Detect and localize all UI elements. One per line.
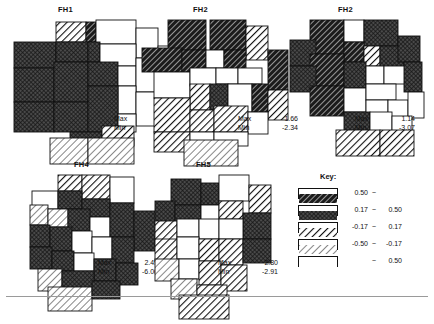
map-region xyxy=(199,219,219,239)
map-region xyxy=(110,203,134,237)
map-region xyxy=(54,62,88,102)
map-region xyxy=(249,185,271,213)
map-region xyxy=(54,102,88,132)
panel-title-fh2b: FH2 xyxy=(338,5,353,14)
legend-low: 0.17 xyxy=(346,206,368,213)
map-region xyxy=(252,84,268,112)
map-region xyxy=(238,68,262,84)
panel-title-fh2a: FH2 xyxy=(193,5,208,14)
map-region xyxy=(219,175,249,201)
map-region xyxy=(110,177,134,203)
map-region xyxy=(366,84,396,100)
max-label: Max xyxy=(114,114,127,123)
map-region xyxy=(404,62,422,92)
map-region xyxy=(52,251,74,271)
min-label: Min xyxy=(218,267,229,276)
map-region xyxy=(179,259,199,279)
legend-label: -0.17~0.17 xyxy=(346,223,402,230)
legend-swatch-light-thin-hatch xyxy=(298,239,338,250)
map-region xyxy=(72,231,92,253)
legend-high: 0.50 xyxy=(380,206,402,213)
legend-swatch-light-thick-hatch xyxy=(298,222,338,233)
map-region xyxy=(58,175,82,191)
map-region xyxy=(118,86,136,114)
map-region xyxy=(154,72,190,98)
map-region xyxy=(90,217,110,237)
legend-separator: ~ xyxy=(368,206,380,213)
map-region xyxy=(184,140,238,166)
map-region xyxy=(380,130,414,156)
max-value: 2.80 xyxy=(252,258,278,267)
map-region xyxy=(142,48,182,72)
map-region xyxy=(179,295,229,319)
map-region xyxy=(219,201,243,219)
map-region xyxy=(206,50,224,68)
min-label: Min xyxy=(355,123,366,132)
map-region xyxy=(88,138,134,164)
max-label: Max xyxy=(238,114,251,123)
map-region xyxy=(58,191,82,209)
legend-separator: ~ xyxy=(368,257,380,264)
map-region xyxy=(96,20,136,44)
legend-high: 0.50 xyxy=(380,257,402,264)
map-region xyxy=(190,84,210,110)
min-label: Min xyxy=(238,123,249,132)
map-region xyxy=(344,62,366,88)
panel-title-fh4: FH4 xyxy=(74,160,89,169)
legend-label: 0.17~0.50 xyxy=(346,206,402,213)
max-label: Max xyxy=(98,258,111,267)
map-region xyxy=(30,225,50,247)
map-region xyxy=(154,98,190,132)
map-region xyxy=(190,110,214,132)
legend-swatch-dark-hatch xyxy=(298,188,338,199)
map-region xyxy=(344,42,364,62)
min-label: Min xyxy=(98,267,109,276)
max-value: 1.14 xyxy=(389,114,415,123)
map-region xyxy=(155,259,179,281)
max-label: Max xyxy=(355,114,368,123)
map-region xyxy=(310,86,344,116)
map-region xyxy=(50,227,72,251)
map-region xyxy=(88,62,118,86)
map-region xyxy=(74,253,94,271)
min-value: -3.07 xyxy=(389,123,415,132)
legend-high: -0.17 xyxy=(380,240,402,247)
map-region xyxy=(364,20,398,46)
map-region xyxy=(366,66,384,84)
legend-low: -0.50 xyxy=(346,240,368,247)
map-region xyxy=(118,66,136,86)
map-region xyxy=(56,42,88,62)
map-region xyxy=(177,237,199,259)
legend-high: 0.17 xyxy=(380,223,402,230)
map-region xyxy=(177,219,199,237)
footer-divider xyxy=(6,296,428,297)
map-region xyxy=(82,175,110,199)
legend-low: 0.50 xyxy=(346,189,368,196)
map-region xyxy=(398,36,420,62)
map-region xyxy=(219,219,243,239)
legend-swatch-white xyxy=(298,256,338,267)
panel-title-fh1: FH1 xyxy=(58,5,73,14)
map-region xyxy=(199,239,219,261)
map-region xyxy=(86,22,96,42)
max-label: Max xyxy=(218,258,231,267)
legend-title: Key: xyxy=(320,172,336,181)
map-region xyxy=(14,68,54,102)
map-region xyxy=(92,237,112,259)
legend-low: -0.17 xyxy=(346,223,368,230)
map-region xyxy=(190,68,216,86)
map-region xyxy=(344,20,364,42)
map-region xyxy=(14,42,56,68)
legend-label: ~0.50 xyxy=(346,257,402,264)
map-region xyxy=(134,211,156,251)
legend-separator: ~ xyxy=(368,240,380,247)
map-region xyxy=(56,22,86,42)
map-region xyxy=(30,247,52,269)
map-region xyxy=(344,88,366,112)
legend-separator: ~ xyxy=(368,223,380,230)
map-region xyxy=(48,209,68,227)
panel-title-fh5: FH5 xyxy=(196,160,211,169)
map-region xyxy=(48,287,92,311)
min-label: Min xyxy=(114,123,125,132)
